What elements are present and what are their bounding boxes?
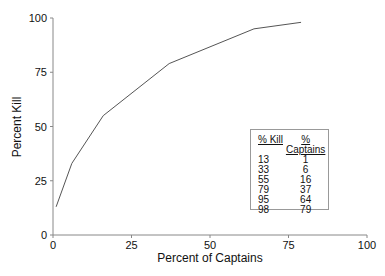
x-tick-label: 75 [282,239,294,251]
y-tick-label: 100 [29,12,47,24]
table-body: 1313365516793795649879 [251,155,328,215]
y-tick-label: 0 [41,229,47,241]
y-axis-title: Percent Kill [10,97,24,158]
table-row: 9879 [251,205,328,215]
x-tick-label: 50 [204,239,216,251]
y-tick-label: 75 [35,66,47,78]
header-kill: % Kill [258,135,283,155]
x-tick-label: 100 [358,239,376,251]
header-captains: % Captains [283,135,328,155]
y-tick-label: 50 [35,121,47,133]
x-tick-label: 0 [50,239,56,251]
table-header: % Kill % Captains [251,130,328,155]
captains-value: 79 [283,205,328,215]
data-table-legend: % Kill % Captains 1313365516793795649879 [250,129,329,210]
y-tick-label: 25 [35,175,47,187]
x-axis-title: Percent of Captains [157,251,262,265]
x-tick-label: 25 [125,239,137,251]
kill-value: 98 [258,205,283,215]
